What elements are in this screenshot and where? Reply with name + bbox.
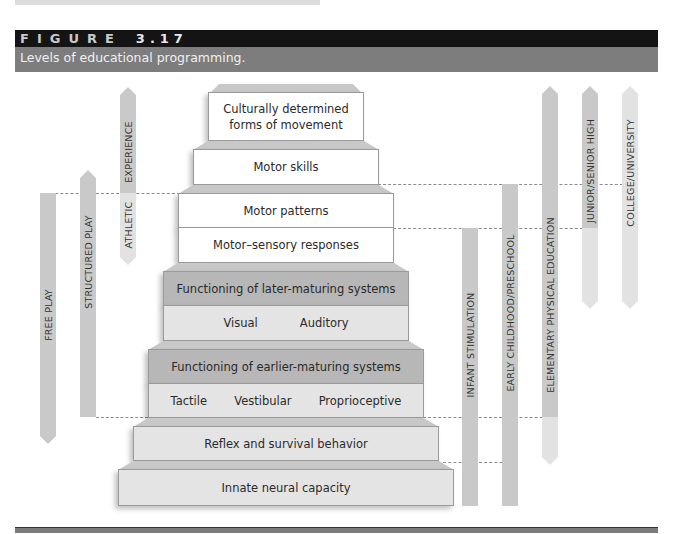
tier-label: Motor skills bbox=[253, 159, 318, 175]
arrow-down-icon bbox=[542, 457, 558, 465]
bottom-rule bbox=[15, 527, 658, 533]
tier-motor-patterns: Motor patterns bbox=[178, 193, 394, 228]
program-athletic-experience: EXPERIENCE ATHLETIC bbox=[120, 95, 136, 257]
program-label: ELEMENTARY PHYSICAL EDUCATION bbox=[545, 217, 556, 393]
program-label: FREE PLAY bbox=[43, 289, 54, 341]
tier-culturally-determined: Culturally determined forms of movement bbox=[208, 92, 364, 141]
tier-tactile-vestibular-proprioceptive: Tactile Vestibular Proprioceptive bbox=[148, 383, 424, 418]
tier-visual-auditory: Visual Auditory bbox=[163, 305, 409, 341]
figure-header: FIGURE3.17 bbox=[15, 30, 658, 47]
program-junior-senior-high: JUNIOR/SENIOR HIGH bbox=[582, 94, 598, 301]
program-label-athletic: ATHLETIC bbox=[123, 201, 134, 248]
tier-label: Functioning of later-maturing systems bbox=[177, 281, 396, 297]
program-label: COLLEGE/UNIVERSITY bbox=[625, 119, 636, 226]
arrow-up-icon bbox=[80, 170, 96, 178]
tier-item-auditory: Auditory bbox=[300, 315, 349, 331]
tier-motor-sensory-responses: Motor–sensory responses bbox=[178, 227, 394, 263]
guide-line bbox=[96, 417, 148, 418]
arrow-down-icon bbox=[120, 257, 136, 265]
tier-later-maturing-systems: Functioning of later-maturing systems bbox=[163, 271, 409, 306]
arrow-lower-segment bbox=[582, 228, 598, 301]
program-label: JUNIOR/SENIOR HIGH bbox=[585, 119, 596, 223]
tier-label: Motor patterns bbox=[243, 203, 328, 219]
figure-title: FIGURE3.17 bbox=[20, 30, 188, 47]
program-structured-play: STRUCTURED PLAY bbox=[80, 178, 96, 417]
tier-label: Innate neural capacity bbox=[221, 480, 350, 496]
program-college-university: COLLEGE/UNIVERSITY bbox=[622, 94, 638, 301]
tier-label: Culturally determined bbox=[223, 101, 348, 117]
program-early-childhood: EARLY CHILDHOOD/PRESCHOOL bbox=[502, 184, 518, 506]
tier-label: Motor–sensory responses bbox=[213, 237, 359, 253]
tier-label: Reflex and survival behavior bbox=[204, 436, 368, 452]
guide-line bbox=[40, 193, 180, 194]
figure-number: 3.17 bbox=[136, 31, 188, 46]
program-label: EARLY CHILDHOOD/PRESCHOOL bbox=[505, 234, 516, 391]
tier-label: forms of movement bbox=[229, 117, 342, 133]
figure-caption-bar: Levels of educational programming. bbox=[15, 47, 658, 72]
guide-line bbox=[423, 417, 558, 418]
arrow-up-icon bbox=[622, 86, 638, 94]
arrow-down-icon bbox=[40, 436, 56, 444]
arrow-up-icon bbox=[582, 86, 598, 94]
tier-motor-skills: Motor skills bbox=[193, 149, 379, 185]
arrow-down-icon bbox=[622, 301, 638, 309]
program-label-experience: EXPERIENCE bbox=[123, 121, 134, 182]
program-label: STRUCTURED PLAY bbox=[83, 215, 94, 309]
arrow-up-icon bbox=[120, 87, 136, 95]
top-smear bbox=[15, 0, 320, 5]
program-label: INFANT STIMULATION bbox=[465, 292, 476, 397]
tier-item-tactile: Tactile bbox=[171, 393, 207, 409]
tier-innate-neural-capacity: Innate neural capacity bbox=[118, 469, 454, 506]
tier-item-vestibular: Vestibular bbox=[234, 393, 291, 409]
tier-item-visual: Visual bbox=[223, 315, 257, 331]
program-elementary-pe: ELEMENTARY PHYSICAL EDUCATION bbox=[542, 94, 558, 457]
figure-label: FIGURE bbox=[20, 31, 122, 46]
tier-reflex-survival: Reflex and survival behavior bbox=[133, 426, 439, 461]
arrow-down-icon bbox=[582, 301, 598, 309]
arrow-lower-segment bbox=[542, 417, 558, 457]
guide-line bbox=[393, 228, 598, 229]
figure-caption: Levels of educational programming. bbox=[20, 49, 245, 67]
program-infant-stimulation: INFANT STIMULATION bbox=[462, 228, 478, 506]
arrow-up-icon bbox=[542, 86, 558, 94]
tier-item-proprioceptive: Proprioceptive bbox=[319, 393, 402, 409]
tier-earlier-maturing-systems: Functioning of earlier-maturing systems bbox=[148, 349, 424, 384]
program-free-play: FREE PLAY bbox=[40, 193, 56, 436]
tier-label: Functioning of earlier-maturing systems bbox=[171, 359, 400, 375]
